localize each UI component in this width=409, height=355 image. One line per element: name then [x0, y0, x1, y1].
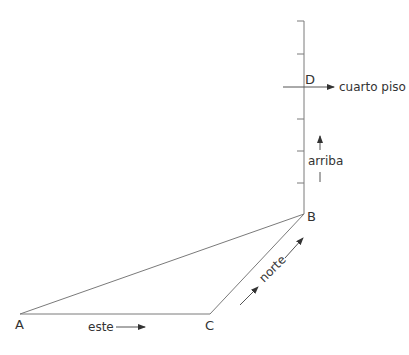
segment-a-b — [20, 214, 304, 314]
north-arrow-lower-icon — [240, 287, 258, 305]
fourth-floor-label: cuarto piso — [339, 80, 406, 94]
vertex-label-b: B — [307, 209, 316, 224]
up-label: arriba — [308, 154, 343, 168]
vertex-label-d: D — [305, 72, 315, 87]
north-arrow-upper-icon — [285, 238, 303, 258]
vertex-label-a: A — [15, 317, 24, 332]
displacement-diagram: A B C D este norte arriba cuarto piso — [0, 0, 409, 355]
vertex-label-c: C — [205, 318, 214, 333]
north-label: norte — [256, 253, 289, 286]
segment-c-b — [210, 214, 304, 314]
east-label: este — [88, 320, 114, 334]
